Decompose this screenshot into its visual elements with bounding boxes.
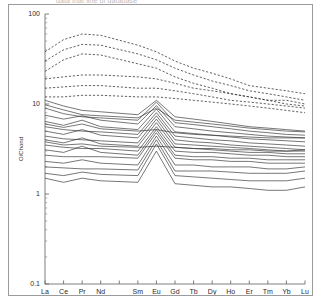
y-tick-label: 100 <box>28 10 40 17</box>
x-tick-label: La <box>41 288 49 295</box>
series-line-solid-4 <box>45 109 305 142</box>
chart-panel: 1001010.1LaCePrNdSmEuGdTbDyHoErTmYbLuO/C… <box>8 4 313 296</box>
x-tick-label: Sm <box>133 288 144 295</box>
x-tick-label: Pr <box>79 288 87 295</box>
ree-plot-svg: 1001010.1LaCePrNdSmEuGdTbDyHoErTmYbLuO/C… <box>9 5 312 295</box>
figure-root: data that line of database 1001010.1LaCe… <box>0 0 329 304</box>
x-tick-label: Tb <box>189 288 197 295</box>
x-tick-label: Eu <box>152 288 161 295</box>
series-line-solid-7 <box>45 119 305 151</box>
x-tick-label: Dy <box>208 288 217 295</box>
x-tick-label: Tm <box>263 288 273 295</box>
x-tick-label: Nd <box>96 288 105 295</box>
x-tick-label: Ho <box>226 288 235 295</box>
series-line-dashed-2 <box>45 44 305 100</box>
series-line-dashed-4 <box>45 75 305 104</box>
series-line-dashed-5 <box>45 86 305 109</box>
x-tick-label: Lu <box>301 288 309 295</box>
x-tick-label: Er <box>246 288 254 295</box>
series-line-dashed-6 <box>45 95 305 112</box>
series-line-solid-11 <box>45 133 305 164</box>
y-tick-label: 0.1 <box>30 280 40 287</box>
x-tick-label: Gd <box>170 288 179 295</box>
y-tick-label: 1 <box>36 190 40 197</box>
y-tick-label: 10 <box>32 100 40 107</box>
x-tick-label: Yb <box>282 288 291 295</box>
series-line-dashed-1 <box>45 34 305 94</box>
series-line-solid-8 <box>45 123 305 154</box>
x-tick-label: Ce <box>59 288 68 295</box>
y-axis-title: O/Chond <box>18 137 24 161</box>
